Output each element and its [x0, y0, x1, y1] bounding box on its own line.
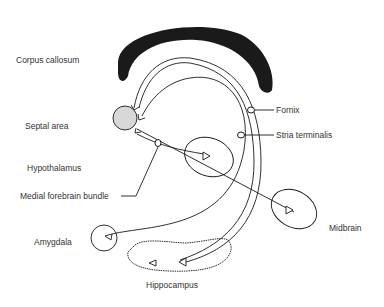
fornix-marker	[248, 107, 255, 113]
hippocampus-shape	[128, 239, 231, 272]
corpus-callosum-shape	[118, 27, 273, 93]
stria-terminalis-pathway	[112, 77, 245, 234]
label-hippocampus: Hippocampus	[146, 281, 198, 290]
label-septal-area: Septal area	[25, 122, 68, 131]
arrow-amygdala-icon	[105, 234, 112, 240]
arrow-hippocampus-1-icon	[149, 260, 156, 266]
medial-forebrain-bundle-branch	[137, 134, 204, 154]
arrow-hypothalamus-icon	[203, 152, 210, 160]
mfb-leader	[121, 147, 158, 196]
label-hypothalamus: Hypothalamus	[27, 164, 81, 173]
arrow-septal-2-icon	[138, 114, 145, 120]
label-midbrain: Midbrain	[329, 224, 362, 233]
midbrain-shape	[264, 181, 324, 236]
label-stria-terminalis: Stria terminalis	[276, 131, 332, 140]
label-medial-forebrain-bundle: Medial forebrain bundle	[20, 192, 109, 201]
label-fornix: Fornix	[276, 106, 300, 115]
mfb-marker	[155, 140, 161, 147]
arrow-midbrain-icon	[286, 206, 293, 214]
stria-marker	[238, 132, 245, 138]
label-amygdala: Amygdala	[34, 238, 72, 247]
amygdala-shape	[91, 225, 117, 251]
fornix-pathway-inner	[139, 63, 254, 260]
limbic-diagram	[0, 0, 384, 307]
label-corpus-callosum: Corpus callosum	[16, 56, 79, 65]
